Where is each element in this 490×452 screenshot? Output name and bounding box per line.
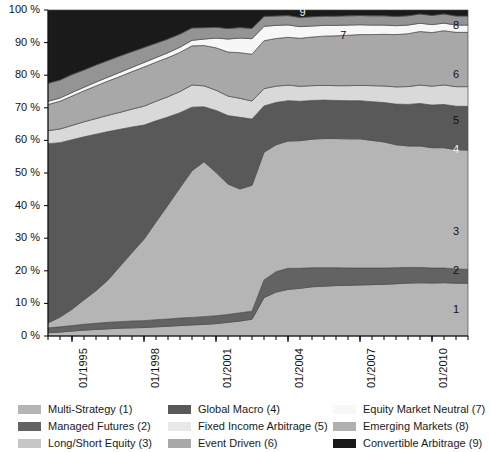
y-tick-label: 20 % xyxy=(0,264,40,276)
series-callout-8: 8 xyxy=(453,19,459,31)
series-callout-5: 5 xyxy=(453,114,459,126)
y-tick-label: 10 % xyxy=(0,296,40,308)
y-axis-ticks xyxy=(44,10,48,336)
x-tick-label: 01/1998 xyxy=(149,348,161,388)
legend-item[interactable]: Event Driven (6) xyxy=(168,436,328,451)
legend-item[interactable]: Long/Short Equity (3) xyxy=(18,436,152,451)
swatch-fixed-income-arbitrage-icon xyxy=(168,422,191,431)
swatch-emerging-markets-icon xyxy=(333,422,356,431)
series-callout-9: 9 xyxy=(299,6,305,18)
legend: Multi-Strategy (1)Managed Futures (2)Lon… xyxy=(0,402,490,452)
legend-item-label: Fixed Income Arbitrage (5) xyxy=(198,421,328,432)
stacked-area-chart: 0 %10 %20 %30 %40 %50 %60 %70 %80 %90 %1… xyxy=(0,0,490,452)
y-tick-label: 80 % xyxy=(0,68,40,80)
legend-item-label: Convertible Arbitrage (9) xyxy=(363,438,482,449)
series-callout-4: 4 xyxy=(453,143,459,155)
legend-item-label: Event Driven (6) xyxy=(198,438,277,449)
legend-item[interactable]: Multi-Strategy (1) xyxy=(18,402,152,417)
y-tick-label: 0 % xyxy=(0,329,40,341)
swatch-managed-futures-icon xyxy=(18,422,41,431)
y-tick-label: 50 % xyxy=(0,166,40,178)
series-callout-2: 2 xyxy=(453,264,459,276)
x-tick-label: 01/1995 xyxy=(77,348,89,388)
y-tick-label: 100 % xyxy=(0,3,40,15)
swatch-multi-strategy-icon xyxy=(18,405,41,414)
legend-item[interactable]: Convertible Arbitrage (9) xyxy=(333,436,485,451)
legend-item[interactable]: Managed Futures (2) xyxy=(18,419,152,434)
legend-item[interactable]: Fixed Income Arbitrage (5) xyxy=(168,419,328,434)
y-tick-label: 70 % xyxy=(0,101,40,113)
swatch-global-macro-icon xyxy=(168,405,191,414)
legend-item-label: Emerging Markets (8) xyxy=(363,421,469,432)
legend-item-label: Managed Futures (2) xyxy=(48,421,151,432)
legend-item-label: Global Macro (4) xyxy=(198,404,280,415)
legend-column-1: Multi-Strategy (1)Managed Futures (2)Lon… xyxy=(18,402,152,452)
y-tick-label: 60 % xyxy=(0,133,40,145)
swatch-equity-market-neutral-icon xyxy=(333,405,356,414)
series-callout-1: 1 xyxy=(453,303,459,315)
series-callout-7: 7 xyxy=(340,29,346,41)
legend-item[interactable]: Equity Market Neutral (7) xyxy=(333,402,485,417)
legend-item-label: Multi-Strategy (1) xyxy=(48,404,132,415)
x-tick-label: 01/2007 xyxy=(365,348,377,388)
x-tick-label: 01/2010 xyxy=(437,348,449,388)
legend-column-3: Equity Market Neutral (7)Emerging Market… xyxy=(333,402,485,452)
stack-bands xyxy=(48,10,468,336)
swatch-event-driven-icon xyxy=(168,439,191,448)
swatch-long-short-equity-icon xyxy=(18,439,41,448)
y-tick-label: 30 % xyxy=(0,231,40,243)
series-callout-3: 3 xyxy=(453,225,459,237)
x-tick-label: 01/2001 xyxy=(221,348,233,388)
series-callout-6: 6 xyxy=(453,68,459,80)
legend-column-2: Global Macro (4)Fixed Income Arbitrage (… xyxy=(168,402,328,452)
legend-item[interactable]: Global Macro (4) xyxy=(168,402,328,417)
legend-item-label: Equity Market Neutral (7) xyxy=(363,404,485,415)
y-tick-label: 40 % xyxy=(0,199,40,211)
x-axis-ticks xyxy=(48,336,468,342)
y-tick-label: 90 % xyxy=(0,36,40,48)
legend-item-label: Long/Short Equity (3) xyxy=(48,438,152,449)
swatch-convertible-arbitrage-icon xyxy=(333,439,356,448)
legend-item[interactable]: Emerging Markets (8) xyxy=(333,419,485,434)
plot-area xyxy=(0,0,490,452)
x-tick-label: 01/2004 xyxy=(293,348,305,388)
